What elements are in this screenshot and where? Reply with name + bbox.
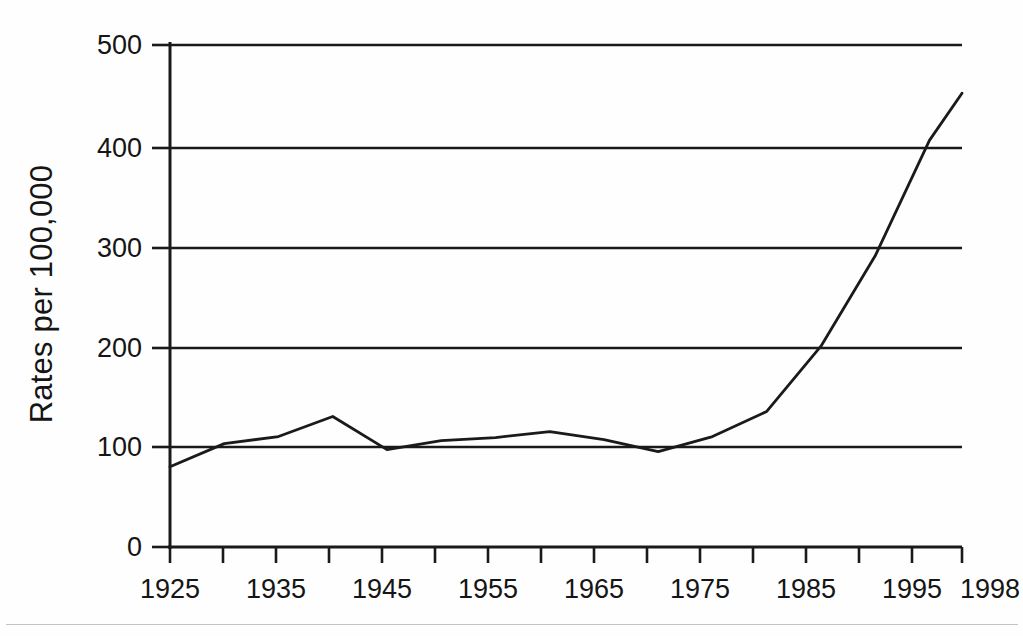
line-chart-canvas bbox=[0, 0, 1023, 636]
x-tick-label-1945: 1945 bbox=[327, 574, 437, 605]
y-axis-ticks bbox=[152, 45, 170, 547]
x-tick-label-1925: 1925 bbox=[115, 574, 225, 605]
y-tick-label-0: 0 bbox=[32, 532, 142, 563]
page-bottom-rule bbox=[6, 624, 1018, 625]
y-tick-label-200: 200 bbox=[32, 333, 142, 364]
x-tick-label-1975: 1975 bbox=[645, 574, 755, 605]
x-tick-label-1965: 1965 bbox=[539, 574, 649, 605]
x-tick-label-1955: 1955 bbox=[433, 574, 543, 605]
y-tick-label-400: 400 bbox=[32, 133, 142, 164]
chart-figure: Rates per 100,000 500 400 300 200 100 0 … bbox=[0, 0, 1023, 636]
x-tick-label-1998: 1998 bbox=[935, 574, 1023, 605]
x-tick-label-1985: 1985 bbox=[751, 574, 861, 605]
x-tick-label-1935: 1935 bbox=[221, 574, 331, 605]
axes bbox=[168, 42, 962, 549]
y-tick-label-100: 100 bbox=[32, 432, 142, 463]
y-tick-label-300: 300 bbox=[32, 233, 142, 264]
y-axis-title: Rates per 100,000 bbox=[24, 144, 60, 444]
y-tick-label-500: 500 bbox=[32, 30, 142, 61]
x-axis-ticks bbox=[170, 547, 962, 563]
gridlines bbox=[170, 45, 962, 447]
